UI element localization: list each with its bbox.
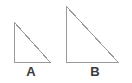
triangle-b-label: B [85,65,105,79]
shapes-canvas [0,0,132,83]
triangle-a [14,22,50,62]
geometry-figure: A B [0,0,132,83]
triangle-b [66,6,118,62]
triangle-a-label: A [21,65,41,79]
